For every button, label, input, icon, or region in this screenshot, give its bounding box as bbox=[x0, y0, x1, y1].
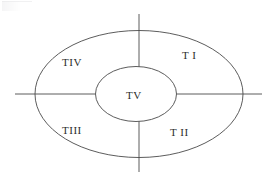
region-label-t-five: TV bbox=[126, 89, 142, 101]
region-label-t-four: TIV bbox=[62, 56, 82, 68]
region-label-t-three: TIII bbox=[62, 124, 82, 136]
ellipse-quadrant-diagram: T I T II TIII TIV TV bbox=[0, 0, 270, 185]
region-label-t-one: T I bbox=[182, 49, 196, 61]
diagram-canvas: T I T II TIII TIV TV bbox=[0, 0, 270, 185]
region-label-t-two: T II bbox=[170, 126, 189, 138]
